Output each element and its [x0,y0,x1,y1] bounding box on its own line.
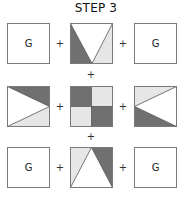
tile-checker [70,86,113,127]
v-up-pattern-icon [70,147,113,188]
tile-label: G [7,147,50,188]
plus-sign: + [86,132,96,142]
tile-v-down [70,23,113,64]
tile-g-bottom-left: G [7,147,50,188]
plus-sign: + [86,70,96,80]
tile-label: G [134,147,177,188]
plus-sign: + [55,39,65,49]
tile-g-bottom-right: G [134,147,177,188]
plus-sign: + [118,102,128,112]
tile-label: G [7,23,50,64]
plus-sign: + [118,163,128,173]
step-title: STEP 3 [0,1,192,15]
tile-g-top-right: G [134,23,177,64]
tile-v-up [70,147,113,188]
tile-g-top-left: G [7,23,50,64]
plus-sign: + [55,102,65,112]
v-left-pattern-icon [134,86,177,127]
v-down-pattern-icon [70,23,113,64]
v-right-pattern-icon [7,86,50,127]
tile-v-right [7,86,50,127]
plus-sign: + [118,39,128,49]
checker-pattern-icon [70,86,113,127]
tile-v-left [134,86,177,127]
tile-label: G [134,23,177,64]
plus-sign: + [55,163,65,173]
